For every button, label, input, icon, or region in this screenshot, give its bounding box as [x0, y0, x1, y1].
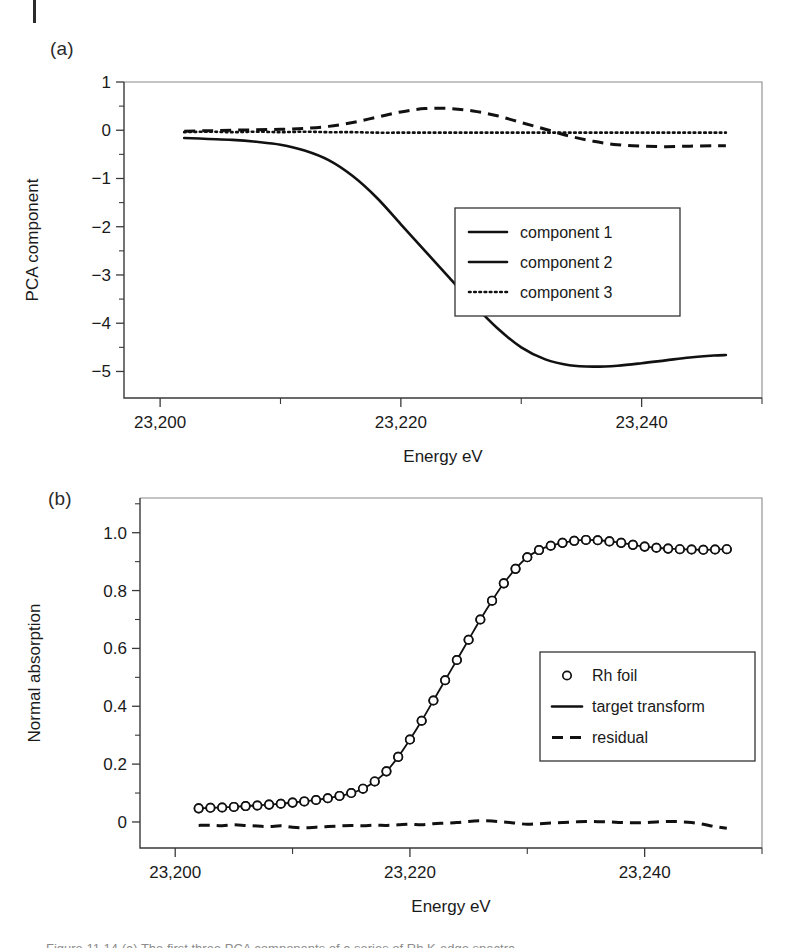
data-marker — [570, 537, 578, 545]
data-marker — [371, 777, 379, 785]
y-tick-label: −2 — [92, 218, 111, 237]
data-marker — [523, 553, 531, 561]
x-tick-label: 23,200 — [134, 413, 186, 432]
data-marker — [441, 676, 449, 684]
data-marker — [194, 804, 202, 812]
data-marker — [500, 579, 508, 587]
data-marker — [594, 536, 602, 544]
data-marker — [382, 767, 390, 775]
y-tick-label: −3 — [92, 266, 111, 285]
data-marker — [347, 789, 355, 797]
legend-label: residual — [592, 729, 648, 746]
legend-label: component 2 — [520, 254, 613, 271]
y-tick-label: 0.4 — [103, 697, 127, 716]
data-marker — [230, 803, 238, 811]
series-component-2 — [184, 108, 726, 146]
data-marker — [547, 542, 555, 550]
left-margin-rule — [33, 0, 36, 23]
data-marker — [406, 735, 414, 743]
x-axis-title: Energy eV — [411, 897, 491, 916]
data-marker — [335, 792, 343, 800]
legend-label: component 1 — [520, 224, 613, 241]
data-marker — [241, 802, 249, 810]
series-component-3 — [184, 132, 726, 133]
x-tick-label: 23,220 — [375, 413, 427, 432]
data-marker — [429, 696, 437, 704]
data-marker — [359, 785, 367, 793]
data-marker — [582, 536, 590, 544]
data-marker — [711, 545, 719, 553]
y-tick-label: 0.2 — [103, 755, 127, 774]
y-tick-label: −5 — [92, 362, 111, 381]
data-marker — [265, 800, 273, 808]
data-marker — [699, 546, 707, 554]
y-axis-title: Normal absorption — [25, 604, 44, 743]
panel-label-a: (a) — [50, 38, 74, 60]
figure-caption-partial: Figure 11.14 (a) The first three PCA com… — [46, 941, 746, 948]
y-tick-label: 1.0 — [103, 524, 127, 543]
data-marker — [488, 596, 496, 604]
y-tick-label: 0.8 — [103, 582, 127, 601]
y-tick-label: 1 — [102, 73, 111, 92]
data-marker — [453, 656, 461, 664]
data-marker — [640, 542, 648, 550]
data-marker — [629, 541, 637, 549]
data-marker — [558, 539, 566, 547]
data-marker — [511, 565, 519, 573]
data-marker — [535, 546, 543, 554]
x-tick-label: 23,200 — [149, 863, 201, 882]
plot-area-a: 10−1−2−3−4−523,20023,22023,240Energy eVP… — [23, 73, 762, 466]
data-marker — [652, 544, 660, 552]
data-marker — [300, 797, 308, 805]
data-marker — [417, 717, 425, 725]
x-axis-title: Energy eV — [403, 447, 483, 466]
data-marker — [687, 545, 695, 553]
data-marker — [476, 615, 484, 623]
y-axis-title: PCA component — [23, 178, 42, 301]
data-marker — [218, 803, 226, 811]
data-marker — [617, 539, 625, 547]
series-residual — [199, 821, 727, 829]
plot-area-b: 00.20.40.60.81.023,20023,22023,240Energy… — [25, 498, 762, 916]
legend-marker-circle — [563, 671, 571, 679]
y-tick-label: 0 — [102, 121, 111, 140]
legend-label: component 3 — [520, 284, 613, 301]
x-tick-label: 23,240 — [616, 413, 668, 432]
data-marker — [394, 753, 402, 761]
data-marker — [277, 800, 285, 808]
y-tick-label: −1 — [92, 169, 111, 188]
data-marker — [253, 801, 261, 809]
data-marker — [312, 796, 320, 804]
legend-label: target transform — [592, 698, 705, 715]
data-marker — [206, 804, 214, 812]
data-marker — [676, 545, 684, 553]
data-marker — [723, 545, 731, 553]
y-tick-label: −4 — [92, 314, 111, 333]
y-tick-label: 0.6 — [103, 639, 127, 658]
data-marker — [605, 537, 613, 545]
chart-panel-a: 10−1−2−3−4−523,20023,22023,240Energy eVP… — [0, 60, 806, 480]
data-marker — [464, 636, 472, 644]
y-tick-label: 0 — [118, 813, 127, 832]
data-marker — [324, 794, 332, 802]
legend-label: Rh foil — [592, 667, 637, 684]
figure-page: (a) (b) 10−1−2−3−4−523,20023,22023,240En… — [0, 0, 806, 948]
chart-panel-b: 00.20.40.60.81.023,20023,22023,240Energy… — [0, 470, 806, 940]
data-marker — [664, 544, 672, 552]
x-tick-label: 23,240 — [619, 863, 671, 882]
x-tick-label: 23,220 — [384, 863, 436, 882]
data-marker — [288, 798, 296, 806]
